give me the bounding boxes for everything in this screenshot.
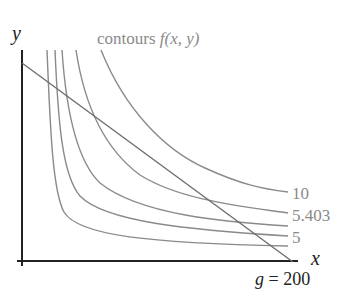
title-word: contours [97, 29, 156, 48]
contour-1 [47, 50, 288, 246]
constraint-line [22, 63, 293, 262]
y-axis-label: y [10, 22, 21, 45]
contour-label-10: 10 [292, 184, 309, 203]
title: contours f(x, y) [97, 29, 200, 48]
contours [47, 50, 288, 246]
constraint-label: g = 200 [255, 269, 310, 289]
x-axis-label: x [310, 247, 320, 269]
contour-10 [101, 50, 288, 192]
constraint-label-text: g = 200 [255, 269, 310, 289]
contour-label-5: 5 [292, 228, 301, 247]
contour-5 [62, 50, 288, 226]
contour-label-5403: 5.403 [292, 206, 330, 225]
title-function: f(x, y) [160, 29, 200, 48]
contour-diagram: y x contours f(x, y) 10 5.403 5 g = 200 [0, 0, 358, 304]
